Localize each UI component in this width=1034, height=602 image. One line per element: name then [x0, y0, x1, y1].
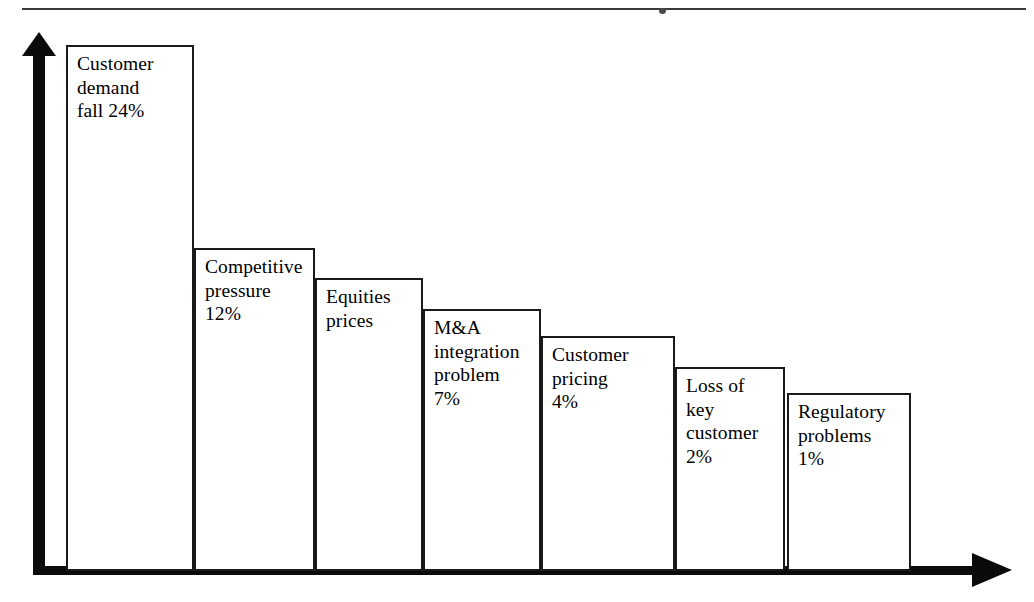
- bar-customer-demand-fall: Customer demand fall 24%: [66, 45, 194, 571]
- bar-label: Regulatory problems 1%: [798, 400, 905, 471]
- bar-loss-of-key-customer: Loss of key customer 2%: [675, 367, 785, 571]
- bar-label: Customer pricing 4%: [552, 343, 669, 414]
- x-axis-arrowhead-icon: [972, 553, 1012, 587]
- page-artifact-speck: [659, 8, 666, 14]
- bar-label: Loss of key customer 2%: [686, 374, 779, 468]
- bar-label: Customer demand fall 24%: [77, 52, 188, 123]
- bar-customer-pricing: Customer pricing 4%: [541, 336, 675, 571]
- bar-competitive-pressure: Competitive pressure 12%: [194, 248, 315, 571]
- bar-label: M&A integration problem 7%: [434, 316, 535, 410]
- bar-equities-prices: Equities prices: [315, 278, 423, 571]
- bar-label: Equities prices: [326, 285, 417, 332]
- y-axis-line: [33, 52, 45, 573]
- bar-ma-integration-problem: M&A integration problem 7%: [423, 309, 541, 571]
- bar-label: Competitive pressure 12%: [205, 255, 309, 326]
- chart-figure: Customer demand fall 24%Competitive pres…: [0, 0, 1034, 602]
- bar-regulatory-problems: Regulatory problems 1%: [787, 393, 911, 571]
- header-divider-rule: [22, 8, 1026, 10]
